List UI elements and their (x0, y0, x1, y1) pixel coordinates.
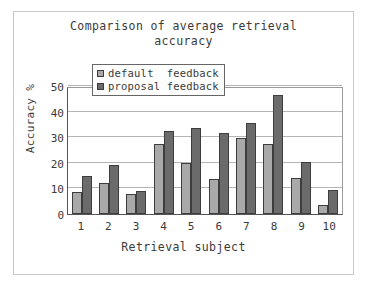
bar-1-default[interactable] (72, 192, 82, 214)
x-tick-label: 6 (206, 220, 232, 233)
y-tick-label: 40 (40, 106, 64, 119)
plot-area (67, 87, 343, 215)
y-tick-label: 30 (40, 132, 64, 145)
legend-swatch-default-icon (97, 70, 104, 77)
chart-legend: default feedbackproposal feedback (92, 64, 225, 96)
bar-4-default[interactable] (154, 144, 164, 214)
bar-8-proposal[interactable] (273, 95, 283, 214)
chart-figure: Comparison of average retrieval accuracy… (0, 0, 366, 286)
x-tick-label: 8 (261, 220, 287, 233)
bar-6-default[interactable] (209, 179, 219, 214)
bar-group (291, 88, 311, 214)
y-tick-label: 0 (40, 209, 64, 222)
y-tick-label: 50 (40, 81, 64, 94)
y-axis-ticks: 01020304050 (38, 87, 64, 215)
bar-10-proposal[interactable] (328, 190, 338, 214)
bar-3-proposal[interactable] (136, 191, 146, 214)
bar-3-default[interactable] (126, 194, 136, 214)
bar-group (99, 88, 119, 214)
x-tick-label: 10 (316, 220, 342, 233)
legend-item[interactable]: default feedback (97, 67, 219, 80)
y-tick-label: 10 (40, 183, 64, 196)
bar-2-default[interactable] (99, 183, 109, 214)
bar-4-proposal[interactable] (164, 131, 174, 214)
bar-7-default[interactable] (236, 138, 246, 214)
x-tick-label: 3 (123, 220, 149, 233)
x-tick-label: 7 (233, 220, 259, 233)
legend-swatch-proposal-icon (97, 83, 104, 90)
bar-10-default[interactable] (318, 205, 328, 214)
bar-group (209, 88, 229, 214)
bar-group (318, 88, 338, 214)
bar-6-proposal[interactable] (219, 133, 229, 214)
bar-group (181, 88, 201, 214)
bar-group (263, 88, 283, 214)
bar-group (126, 88, 146, 214)
bar-2-proposal[interactable] (109, 165, 119, 214)
x-tick-label: 2 (95, 220, 121, 233)
bar-7-proposal[interactable] (246, 123, 256, 214)
bar-5-default[interactable] (181, 163, 191, 214)
x-axis-label: Retrieval subject (13, 240, 354, 254)
x-axis-ticks: 12345678910 (67, 220, 343, 236)
y-axis-label: Accuracy % (24, 59, 37, 179)
legend-label: proposal feedback (108, 80, 219, 93)
bar-1-proposal[interactable] (82, 176, 92, 214)
x-tick-label: 9 (289, 220, 315, 233)
x-tick-label: 5 (178, 220, 204, 233)
legend-label: default feedback (108, 67, 219, 80)
y-tick-label: 20 (40, 157, 64, 170)
bar-8-default[interactable] (263, 144, 273, 214)
bar-5-proposal[interactable] (191, 128, 201, 214)
bar-9-proposal[interactable] (301, 162, 311, 214)
chart-title: Comparison of average retrieval accuracy (13, 19, 354, 49)
x-tick-label: 4 (151, 220, 177, 233)
bar-group (72, 88, 92, 214)
bar-9-default[interactable] (291, 178, 301, 214)
bar-group (236, 88, 256, 214)
legend-item[interactable]: proposal feedback (97, 80, 219, 93)
bars-layer (68, 88, 342, 214)
bar-group (154, 88, 174, 214)
x-tick-label: 1 (68, 220, 94, 233)
